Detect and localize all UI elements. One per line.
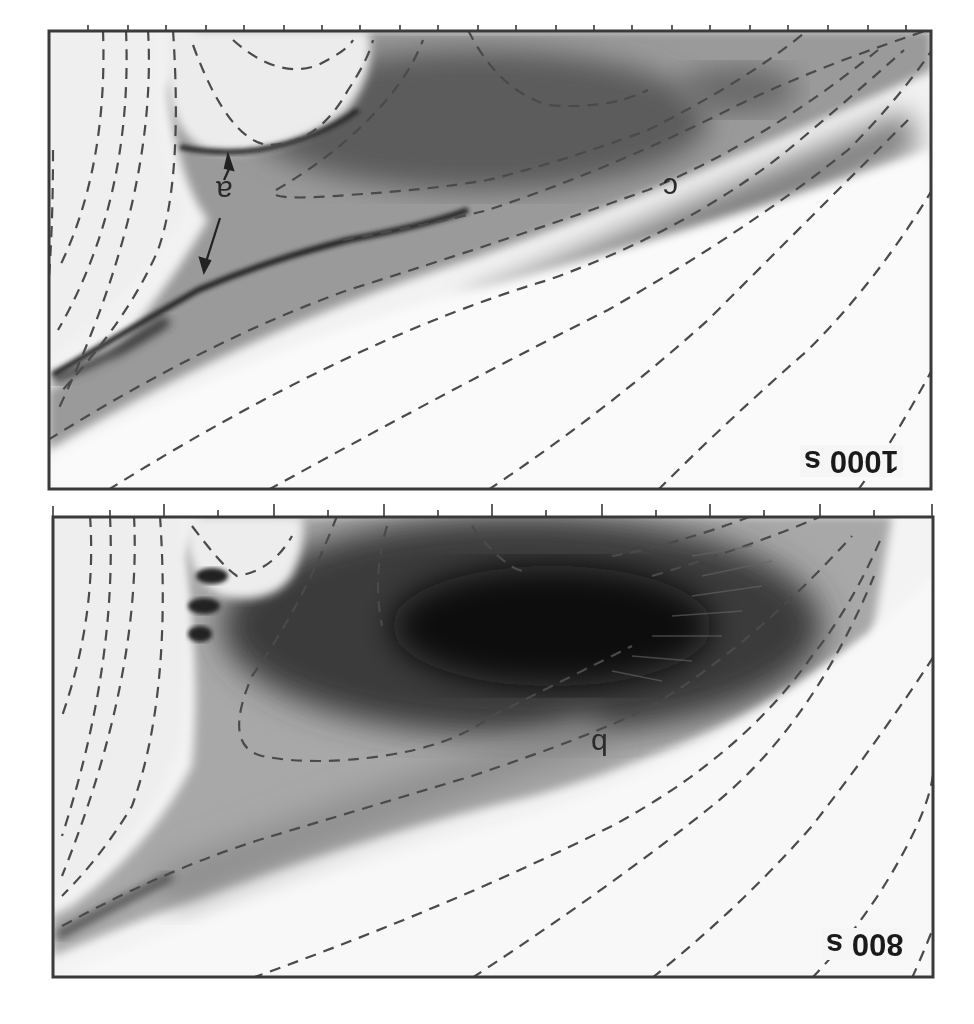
time-label-1000s: 1000 s	[800, 445, 903, 477]
contour-field-800s	[52, 516, 934, 978]
axis-ticks-top	[53, 504, 932, 517]
contour-field-1000s	[48, 30, 932, 490]
time-label-800s: 800 s	[822, 928, 908, 960]
region-label-b: b	[591, 729, 608, 759]
region-label-a: a	[216, 176, 233, 206]
region-label-c: c	[663, 173, 678, 203]
figure-caption-cropped: ▁▁▁ ▁▁ ▁▁▁▁▁ ▁▁▁ ▁▁▁▁▁▁▁▁▁ ▁▁▁▁	[320, 1014, 950, 1024]
panel-1000s: a c 1000 s	[48, 30, 932, 490]
panel-800s: b 800 s	[52, 516, 934, 978]
